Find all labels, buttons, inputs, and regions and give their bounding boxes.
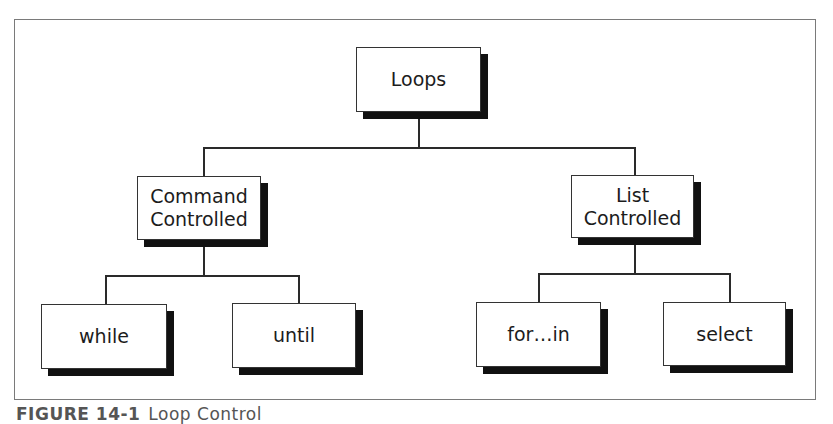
figure-caption: FIGURE 14-1Loop Control bbox=[16, 404, 262, 424]
node-label: for…in bbox=[507, 323, 569, 346]
connector-to-select bbox=[729, 273, 731, 302]
connector-list-horizontal bbox=[538, 273, 730, 275]
connector-command-horizontal bbox=[105, 275, 300, 277]
node-command-controlled: Command Controlled bbox=[137, 176, 261, 240]
connector-to-until bbox=[298, 275, 300, 303]
node-loops: Loops bbox=[356, 47, 481, 112]
node-select: select bbox=[663, 302, 786, 366]
connector-to-list bbox=[634, 147, 636, 175]
node-label-line1: List bbox=[616, 184, 649, 207]
node-label-line2: Controlled bbox=[584, 207, 682, 230]
node-list-controlled: List Controlled bbox=[571, 175, 694, 238]
figure-title: Loop Control bbox=[148, 404, 262, 424]
node-label-line2: Controlled bbox=[150, 208, 248, 231]
connector-level1-horizontal bbox=[203, 147, 635, 149]
node-until: until bbox=[232, 303, 356, 368]
connector-to-forin bbox=[538, 273, 540, 302]
node-label: select bbox=[696, 323, 752, 346]
node-label: Loops bbox=[391, 68, 446, 91]
node-label: while bbox=[79, 325, 129, 348]
connector-to-while bbox=[105, 275, 107, 304]
figure-number: FIGURE 14-1 bbox=[16, 404, 140, 424]
connector-to-command bbox=[203, 147, 205, 176]
node-label: until bbox=[273, 324, 315, 347]
node-label-line1: Command bbox=[150, 185, 248, 208]
node-for-in: for…in bbox=[476, 302, 601, 367]
node-while: while bbox=[41, 304, 167, 369]
